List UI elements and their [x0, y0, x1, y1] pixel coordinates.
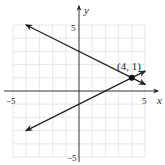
line1-line: [26, 25, 145, 84]
x-axis-label: x: [156, 94, 162, 106]
x-tick-5: 5: [142, 96, 147, 106]
y-tick-5: 5: [71, 23, 76, 33]
intersection-point: [129, 75, 135, 81]
y-tick-neg5: −5: [67, 153, 77, 163]
y-axis-label: y: [83, 4, 89, 16]
x-tick-neg5: −5: [6, 96, 16, 106]
coordinate-plane: x y −5 5 5 −5 (4, 1): [0, 0, 165, 165]
point-label: (4, 1): [117, 60, 141, 73]
line2-line: [26, 71, 145, 130]
